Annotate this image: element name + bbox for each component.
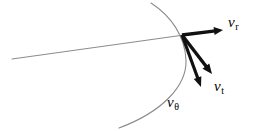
figure-canvas bbox=[0, 0, 259, 131]
radial-line bbox=[12, 35, 184, 59]
theta-velocity-arrow bbox=[182, 35, 201, 87]
theta-velocity-symbol: v bbox=[167, 94, 174, 110]
theta-velocity-label: vθ bbox=[167, 95, 179, 112]
radial-velocity-symbol: v bbox=[228, 14, 235, 30]
theta-velocity-subscript: θ bbox=[174, 101, 179, 112]
radial-velocity-arrow bbox=[182, 27, 223, 35]
theta-velocity-arrow-head bbox=[194, 76, 202, 87]
radial-velocity-subscript: r bbox=[235, 21, 239, 32]
tangential-velocity-symbol: v bbox=[214, 78, 221, 94]
tangential-velocity-subscript: t bbox=[221, 85, 224, 96]
velocity-vector-figure: vr vt vθ bbox=[0, 0, 259, 131]
tangential-velocity-arrow bbox=[182, 35, 212, 74]
radial-velocity-arrow-shaft bbox=[182, 31, 216, 35]
tangential-velocity-label: vt bbox=[214, 79, 224, 96]
radial-velocity-label: vr bbox=[228, 15, 239, 32]
radial-velocity-arrow-head bbox=[214, 27, 223, 35]
